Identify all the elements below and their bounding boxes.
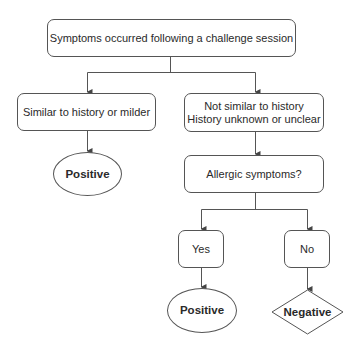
- not-similar-line1: Not similar to history: [204, 100, 304, 113]
- not-similar-line2: History unknown or unclear: [187, 113, 320, 126]
- root-node: Symptoms occurred following a challenge …: [47, 19, 296, 57]
- positive-left-node: Positive: [53, 152, 122, 196]
- root-label: Symptoms occurred following a challenge …: [50, 32, 293, 45]
- allergic-label: Allergic symptoms?: [206, 168, 301, 181]
- negative-node: Negative: [272, 290, 343, 334]
- yes-node: Yes: [178, 230, 224, 268]
- similar-node: Similar to history or milder: [17, 93, 156, 131]
- positive-right-label: Positive: [180, 304, 224, 317]
- no-label: No: [300, 243, 314, 256]
- not-similar-node: Not similar to history History unknown o…: [184, 93, 324, 132]
- no-node: No: [284, 230, 330, 268]
- negative-label: Negative: [284, 306, 332, 319]
- positive-left-label: Positive: [65, 168, 109, 181]
- allergic-node: Allergic symptoms?: [184, 155, 324, 193]
- similar-label: Similar to history or milder: [23, 106, 150, 119]
- positive-right-node: Positive: [167, 288, 237, 333]
- yes-label: Yes: [192, 243, 210, 256]
